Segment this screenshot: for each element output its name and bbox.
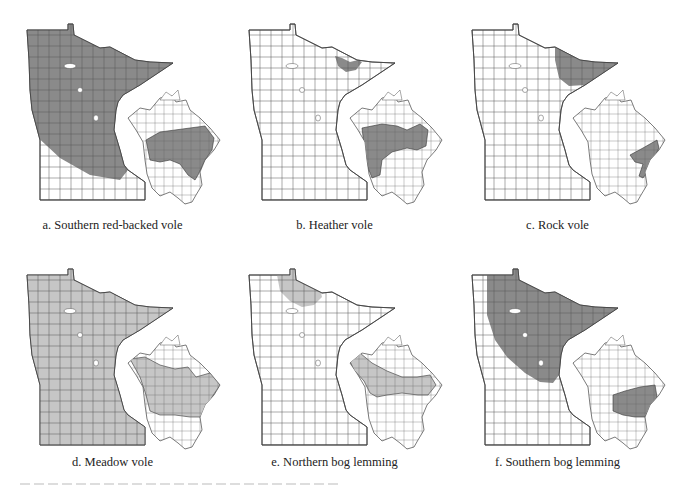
map-panel-a: a. Southern red-backed vole <box>0 0 225 235</box>
minnesota-map-e <box>222 245 447 480</box>
panel-caption-d: d. Meadow vole <box>0 455 225 470</box>
panel-caption-b: b. Heather vole <box>222 218 447 233</box>
minnesota-map-f <box>445 245 670 480</box>
panel-caption-a: a. Southern red-backed vole <box>0 218 225 233</box>
minnesota-map-b <box>222 0 447 235</box>
minnesota-map-a <box>0 0 225 235</box>
panel-caption-f: f. Southern bog lemming <box>445 455 670 470</box>
minnesota-map-d <box>0 245 225 480</box>
minnesota-map-c <box>445 0 670 235</box>
panel-caption-c: c. Rock vole <box>445 218 670 233</box>
map-panel-d: d. Meadow vole <box>0 245 225 480</box>
map-panel-e: e. Northern bog lemming <box>222 245 447 480</box>
map-panel-f: f. Southern bog lemming <box>445 245 670 480</box>
map-panel-c: c. Rock vole <box>445 0 670 235</box>
panel-caption-e: e. Northern bog lemming <box>222 455 447 470</box>
faded-figure-caption-line <box>20 483 340 485</box>
map-panel-b: b. Heather vole <box>222 0 447 235</box>
